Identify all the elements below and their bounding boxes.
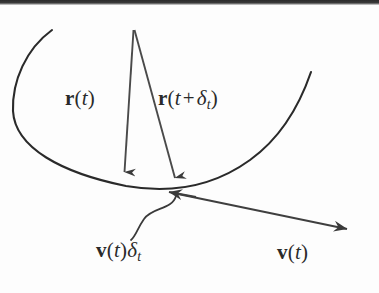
label-displacement: v(t)δt [96, 240, 141, 264]
displacement-leader-squiggle [131, 196, 176, 240]
velocity-tangent-arrow [178, 194, 347, 229]
delta-symbol: δ [127, 238, 137, 262]
open-paren: ( [168, 86, 175, 110]
vector-symbol-r: r [158, 86, 168, 110]
plus-operator: + [181, 86, 197, 110]
label-position-vector-later: r(t+δt) [158, 88, 218, 112]
label-velocity: v(t) [277, 242, 308, 263]
close-paren: ) [88, 86, 95, 110]
label-position-vector: r(t) [65, 88, 95, 109]
math-figure: r(t) r(t+δt) v(t)δt v(t) [0, 0, 379, 293]
vector-symbol-v: v [277, 240, 288, 264]
delta-subscript-t: t [137, 249, 141, 264]
diagram-canvas [0, 0, 379, 293]
open-paren: ( [75, 86, 82, 110]
vector-symbol-r: r [65, 86, 75, 110]
vector-symbol-v: v [96, 238, 107, 262]
velocity-tangent-back-arrow [169, 192, 196, 197]
delta-symbol: δ [197, 86, 207, 110]
position-vector-arrow [125, 30, 134, 172]
open-paren: ( [107, 238, 114, 262]
close-paren: ) [301, 240, 308, 264]
argument-t: t [175, 86, 181, 110]
close-paren: ) [211, 86, 218, 110]
open-paren: ( [288, 240, 295, 264]
